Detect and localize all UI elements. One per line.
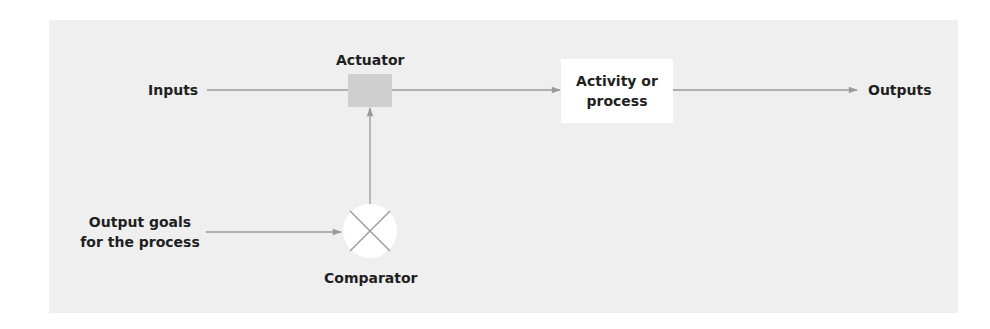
connector-lines <box>0 0 990 329</box>
goals-label-line2: for the process <box>80 234 200 250</box>
actuator-label: Actuator <box>336 50 404 70</box>
activity-label-line2: process <box>586 93 647 109</box>
actuator-node <box>348 74 392 107</box>
goals-label-line1: Output goals <box>89 214 191 230</box>
comparator-label: Comparator <box>324 268 418 288</box>
outputs-label: Outputs <box>868 80 932 100</box>
activity-label-line1: Activity or <box>576 73 658 89</box>
cross-circle-icon <box>343 204 397 258</box>
goals-label: Output goals for the process <box>76 212 204 252</box>
inputs-label: Inputs <box>148 80 198 100</box>
activity-node: Activity or process <box>561 59 673 123</box>
